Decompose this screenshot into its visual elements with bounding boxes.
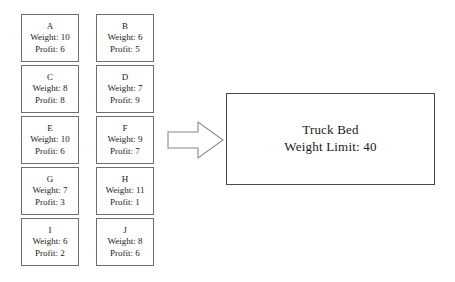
truck-bed-weight-limit: Weight Limit: 40 xyxy=(284,139,376,156)
item-weight: Weight: 10 xyxy=(30,32,70,44)
item-label: E xyxy=(47,123,53,135)
item-grid: AWeight: 10Profit: 6BWeight: 6Profit: 5C… xyxy=(21,14,154,266)
item-weight: Weight: 7 xyxy=(32,185,67,197)
item-box: AWeight: 10Profit: 6 xyxy=(21,14,79,62)
item-box: FWeight: 9Profit: 7 xyxy=(96,116,154,164)
item-profit: Profit: 8 xyxy=(35,95,65,107)
item-label: D xyxy=(122,72,129,84)
item-label: A xyxy=(47,21,54,33)
item-weight: Weight: 6 xyxy=(32,236,67,248)
item-box: HWeight: 11Profit: 1 xyxy=(96,167,154,215)
item-box: DWeight: 7Profit: 9 xyxy=(96,65,154,113)
item-box: CWeight: 8Profit: 8 xyxy=(21,65,79,113)
item-label: I xyxy=(48,225,51,237)
item-profit: Profit: 6 xyxy=(110,248,140,260)
item-label: H xyxy=(122,174,129,186)
item-weight: Weight: 8 xyxy=(32,83,67,95)
item-box: GWeight: 7Profit: 3 xyxy=(21,167,79,215)
item-box: BWeight: 6Profit: 5 xyxy=(96,14,154,62)
item-profit: Profit: 9 xyxy=(110,95,140,107)
item-weight: Weight: 6 xyxy=(107,32,142,44)
truck-bed-container: Truck Bed Weight Limit: 40 xyxy=(226,93,435,185)
item-profit: Profit: 6 xyxy=(35,44,65,56)
item-label: B xyxy=(122,21,128,33)
item-box: IWeight: 6Profit: 2 xyxy=(21,218,79,266)
item-weight: Weight: 8 xyxy=(107,236,142,248)
item-profit: Profit: 6 xyxy=(35,146,65,158)
item-weight: Weight: 7 xyxy=(107,83,142,95)
item-label: C xyxy=(47,72,53,84)
item-weight: Weight: 11 xyxy=(105,185,144,197)
item-profit: Profit: 1 xyxy=(110,197,140,209)
knapsack-diagram: AWeight: 10Profit: 6BWeight: 6Profit: 5C… xyxy=(0,0,455,282)
item-profit: Profit: 7 xyxy=(110,146,140,158)
truck-bed-title: Truck Bed xyxy=(302,122,359,139)
item-weight: Weight: 10 xyxy=(30,134,70,146)
item-box: JWeight: 8Profit: 6 xyxy=(96,218,154,266)
item-label: G xyxy=(47,174,54,186)
item-box: EWeight: 10Profit: 6 xyxy=(21,116,79,164)
right-block-arrow-icon xyxy=(167,120,224,160)
item-profit: Profit: 3 xyxy=(35,197,65,209)
item-label: J xyxy=(123,225,127,237)
item-weight: Weight: 9 xyxy=(107,134,142,146)
item-profit: Profit: 5 xyxy=(110,44,140,56)
item-profit: Profit: 2 xyxy=(35,248,65,260)
item-label: F xyxy=(122,123,127,135)
